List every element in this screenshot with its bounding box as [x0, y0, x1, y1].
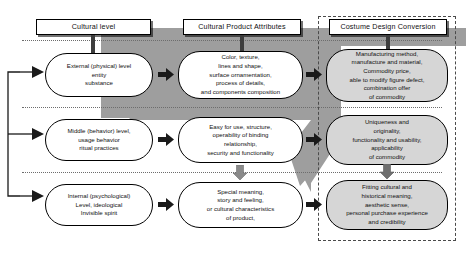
- node-fitting-cultural-historical: Fitting cultural and historical meaning,…: [326, 180, 448, 230]
- header-cultural-level: Cultural level: [36, 19, 151, 35]
- node-external-physical-level: External (physical) level entity substan…: [45, 53, 153, 97]
- arrow-easy-use-to-uniqueness: [306, 133, 322, 146]
- node-middle-behavior-level-text: Middle (behavior) level, usage behavior …: [51, 127, 147, 153]
- node-internal-psychological-level-text: Internal (psychological) Level, ideologi…: [51, 192, 147, 218]
- node-uniqueness-and-originality-text: Uniqueness and originality, functionalit…: [332, 118, 442, 161]
- arrow-down-attributes-column: [233, 165, 247, 180]
- node-uniqueness-and-originality: Uniqueness and originality, functionalit…: [326, 115, 448, 165]
- node-manufacturing-method: Manufacturing method, manufacture and ma…: [326, 49, 448, 102]
- node-special-meaning-story-text: Special meaning, story and feeling, or c…: [184, 188, 297, 223]
- diagram-canvas: Cultural level Cultural Product Attribut…: [0, 0, 466, 255]
- node-external-physical-level-text: External (physical) level entity substan…: [51, 62, 147, 88]
- arrow-special-meaning-to-fitting: [306, 198, 322, 211]
- header-costume-design-conversion: Costume Design Conversion: [329, 19, 447, 35]
- arrow-external-to-attributes: [158, 68, 174, 81]
- stem-cultural-level: [91, 35, 95, 53]
- header-costume-design-conversion-label: Costume Design Conversion: [340, 23, 435, 31]
- node-easy-for-use-structure-text: Easy for use, structure, operability of …: [184, 123, 297, 158]
- arrow-internal-to-special-meaning: [158, 198, 174, 211]
- node-manufacturing-method-text: Manufacturing method, manufacture and ma…: [332, 50, 442, 102]
- arrow-attributes-to-manufacturing: [306, 68, 322, 81]
- stem-cultural-product-attributes: [240, 35, 244, 51]
- header-cultural-product-attributes: Cultural Product Attributes: [183, 19, 301, 35]
- header-cultural-level-label: Cultural level: [72, 23, 116, 31]
- arrow-middle-to-easy-use: [158, 133, 174, 146]
- node-color-texture-attributes: Color, texture, lines and shape, surface…: [178, 51, 303, 99]
- node-color-texture-attributes-text: Color, texture, lines and shape, surface…: [184, 53, 297, 96]
- node-middle-behavior-level: Middle (behavior) level, usage behavior …: [45, 119, 153, 161]
- node-internal-psychological-level: Internal (psychological) Level, ideologi…: [45, 184, 153, 226]
- node-fitting-cultural-historical-text: Fitting cultural and historical meaning,…: [332, 183, 442, 226]
- stem-costume-design-conversion: [386, 35, 390, 50]
- header-cultural-product-attributes-label: Cultural Product Attributes: [198, 23, 286, 31]
- arrow-down-conversion-column: [380, 164, 394, 179]
- node-special-meaning-story: Special meaning, story and feeling, or c…: [178, 182, 303, 228]
- node-easy-for-use-structure: Easy for use, structure, operability of …: [178, 117, 303, 163]
